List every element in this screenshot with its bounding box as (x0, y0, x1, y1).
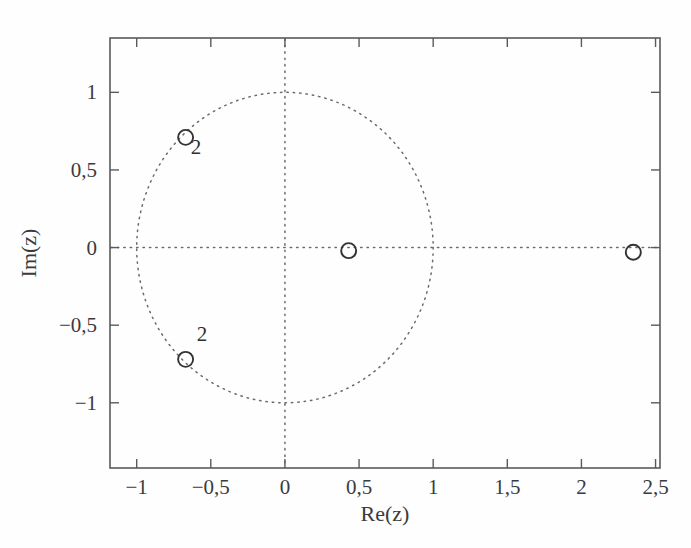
pole-zero-plot-figure: −1−0,500,511,522,5 −1−0,500,51 22 Re(z) … (0, 0, 691, 548)
x-axis-title: Re(z) (361, 501, 410, 526)
x-tick-label: 2,5 (642, 475, 668, 499)
multiplicity-label: 2 (197, 322, 208, 346)
y-tick-label: −0,5 (59, 313, 97, 337)
x-tick-label: 0,5 (346, 475, 372, 499)
x-tick-label: −0,5 (192, 475, 230, 499)
x-tick-label: 2 (576, 475, 587, 499)
y-axis-title: Im(z) (16, 229, 41, 278)
x-tick-label: −1 (126, 475, 148, 499)
y-tick-label: 1 (87, 80, 98, 104)
x-tick-label: 1,5 (494, 475, 520, 499)
y-tick-label: −1 (75, 391, 97, 415)
figure-background (0, 0, 691, 548)
x-tick-label: 0 (280, 475, 291, 499)
y-tick-label: 0 (87, 236, 98, 260)
x-tick-label: 1 (428, 475, 439, 499)
y-tick-label: 0,5 (71, 158, 97, 182)
multiplicity-label: 2 (191, 135, 202, 159)
complex-plane-chart: −1−0,500,511,522,5 −1−0,500,51 22 Re(z) … (0, 0, 691, 548)
